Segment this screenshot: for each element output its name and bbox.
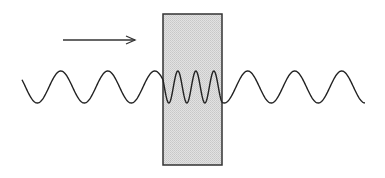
- propagation-arrow-icon: [63, 36, 135, 44]
- transmitted-wave: [222, 71, 365, 103]
- incident-wave: [22, 71, 163, 103]
- dense-medium-slab: [163, 14, 222, 165]
- wave-refraction-diagram: [0, 0, 385, 178]
- diagram-canvas: [0, 0, 385, 178]
